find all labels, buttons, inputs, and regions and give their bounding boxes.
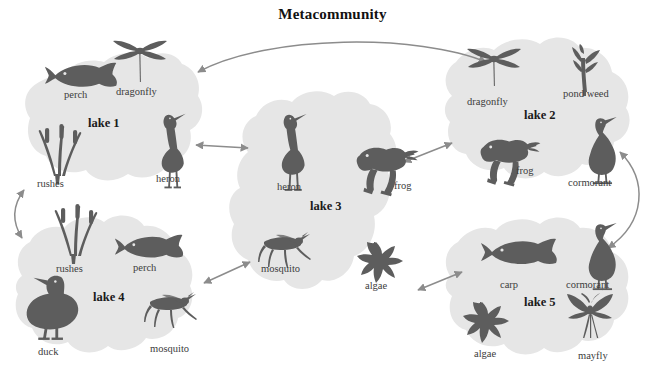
species-label-heron-lake1: heron	[156, 173, 180, 184]
species-label-mosquito-lake4: mosquito	[150, 343, 189, 354]
species-label-frog-lake2: frog	[516, 165, 534, 176]
algae-icon-lake5	[463, 302, 509, 343]
dragonfly-icon-lake2	[467, 49, 521, 86]
algae-icon-lake3	[357, 242, 403, 283]
species-label-rushes-lake1: rushes	[37, 178, 64, 189]
lake-3-label: lake 3	[310, 199, 342, 214]
lake-2-label: lake 2	[524, 108, 556, 123]
species-label-mosquito-lake3: mosquito	[261, 263, 300, 274]
metacommunity-diagram: Metacommunity	[0, 0, 665, 374]
lake-4-label: lake 4	[93, 290, 125, 305]
species-label-cormorant-lake5: cormorant	[566, 279, 609, 290]
heron-icon-lake3	[282, 114, 307, 191]
species-label-algae-lake3: algae	[365, 280, 387, 291]
species-label-mayfly-lake5: mayfly	[578, 350, 608, 361]
species-label-cormorant-lake2: cormorant	[568, 177, 611, 188]
species-label-frog-lake3: frog	[394, 180, 412, 191]
fish-icon-lake4	[115, 235, 183, 258]
species-label-carp-lake5: carp	[500, 279, 518, 290]
species-label-heron-lake3: heron	[277, 181, 301, 192]
species-label-pondweed-lake2: pond weed	[563, 88, 609, 99]
species-label-duck-lake4: duck	[38, 346, 58, 357]
species-label-perch-lake4: perch	[133, 262, 156, 273]
rushes-icon-lake4	[55, 204, 98, 264]
duck-icon-lake4	[27, 276, 79, 340]
species-label-perch-lake1: perch	[64, 89, 87, 100]
frog-icon-lake2	[481, 140, 541, 187]
species-label-rushes-lake4: rushes	[56, 263, 83, 274]
cormorant-icon-lake2	[589, 117, 617, 184]
dragonfly-icon-lake1	[113, 41, 167, 82]
mayfly-icon-lake5	[567, 293, 613, 338]
lake-5-label: lake 5	[524, 295, 556, 310]
rushes-icon-lake1	[39, 124, 82, 184]
lake-1-label: lake 1	[88, 116, 120, 131]
species-silhouettes-layer	[0, 0, 665, 374]
fish-icon-lake1	[45, 63, 117, 87]
fish-icon-lake5	[481, 239, 557, 264]
species-label-dragonfly-lake2: dragonfly	[467, 96, 508, 107]
species-label-dragonfly-lake1: dragonfly	[116, 86, 157, 97]
mosquito-icon-lake4	[144, 292, 197, 328]
species-label-algae-lake5: algae	[474, 348, 496, 359]
